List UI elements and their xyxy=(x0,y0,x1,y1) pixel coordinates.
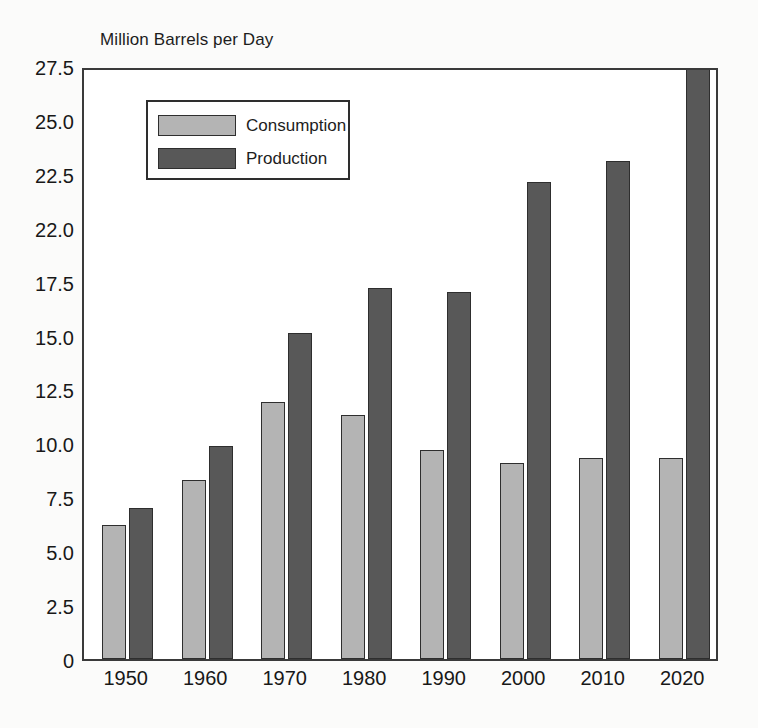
bar-consumption-1960 xyxy=(182,480,206,659)
bar-consumption-2000 xyxy=(500,463,524,659)
x-axis-tick-label: 1960 xyxy=(183,668,228,688)
bar-consumption-1980 xyxy=(341,415,365,659)
y-axis-tick-label: 27.5 xyxy=(0,58,74,78)
bar-consumption-1990 xyxy=(420,450,444,659)
bar-consumption-1950 xyxy=(102,525,126,659)
y-axis-tick-labels: 27.525.022.522.017.515.012.510.07.55.02.… xyxy=(0,68,74,661)
y-axis-tick-label: 25.0 xyxy=(0,112,74,132)
y-axis-tick-label: 10.0 xyxy=(0,435,74,455)
legend-item-production: Production xyxy=(158,144,338,173)
bar-chart: Million Barrels per Day 27.525.022.522.0… xyxy=(0,0,758,728)
bar-consumption-2010 xyxy=(579,458,603,659)
y-axis-tick-label: 5.0 xyxy=(0,543,74,563)
y-axis-tick-label: 15.0 xyxy=(0,328,74,348)
y-axis-tick-label: 22.5 xyxy=(0,166,74,186)
y-axis-tick-label: 0 xyxy=(0,651,74,671)
y-axis-tick-label: 22.0 xyxy=(0,220,74,240)
bar-consumption-1970 xyxy=(261,402,285,659)
x-axis-tick-label: 1990 xyxy=(422,668,467,688)
bar-production-1980 xyxy=(368,288,392,659)
x-axis-tick-label: 2020 xyxy=(660,668,705,688)
chart-title: Million Barrels per Day xyxy=(100,30,273,50)
bar-production-1950 xyxy=(129,508,153,659)
y-axis-tick-label: 7.5 xyxy=(0,489,74,509)
chart-legend: Consumption Production xyxy=(146,100,350,180)
legend-swatch-consumption-icon xyxy=(158,115,236,136)
bar-production-1990 xyxy=(447,292,471,659)
bar-production-2010 xyxy=(606,161,630,659)
y-axis-tick-label: 2.5 xyxy=(0,597,74,617)
x-axis-tick-label: 1950 xyxy=(104,668,149,688)
bar-production-1960 xyxy=(209,446,233,659)
bar-production-1970 xyxy=(288,333,312,659)
legend-swatch-production-icon xyxy=(158,148,236,169)
y-axis-tick-label: 12.5 xyxy=(0,381,74,401)
x-axis-tick-label: 1980 xyxy=(342,668,387,688)
y-axis-tick-label: 17.5 xyxy=(0,274,74,294)
bar-consumption-2020 xyxy=(659,458,683,659)
legend-label-consumption: Consumption xyxy=(246,116,346,136)
legend-item-consumption: Consumption xyxy=(158,111,338,140)
legend-label-production: Production xyxy=(246,149,327,169)
x-axis-tick-labels: 19501960197019801990200020102020 xyxy=(82,668,718,702)
x-axis-tick-label: 2010 xyxy=(581,668,626,688)
bar-production-2000 xyxy=(527,182,551,659)
x-axis-tick-label: 2000 xyxy=(501,668,546,688)
x-axis-tick-label: 1970 xyxy=(263,668,308,688)
bar-production-2020 xyxy=(686,68,710,659)
